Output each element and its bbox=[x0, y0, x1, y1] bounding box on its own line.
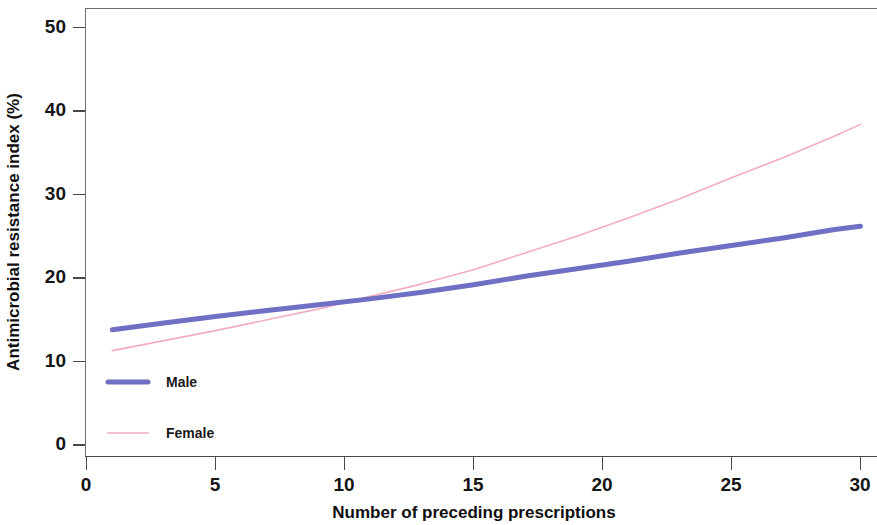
x-axis-ticks bbox=[87, 456, 861, 470]
x-tick-label-10: 10 bbox=[333, 474, 354, 495]
legend-label-male: Male bbox=[166, 374, 197, 390]
x-tick-label-15: 15 bbox=[462, 474, 484, 495]
y-tick-label-20: 20 bbox=[45, 266, 66, 287]
legend-label-female: Female bbox=[166, 425, 214, 441]
x-tick-label-25: 25 bbox=[720, 474, 742, 495]
line-chart: 50 40 30 20 10 0 0 5 10 15 20 25 30 bbox=[0, 0, 877, 525]
x-tick-label-20: 20 bbox=[591, 474, 612, 495]
x-tick-label-0: 0 bbox=[81, 474, 92, 495]
y-tick-label-50: 50 bbox=[45, 16, 66, 37]
x-tick-label-5: 5 bbox=[210, 474, 221, 495]
y-tick-label-0: 0 bbox=[55, 433, 66, 454]
y-axis-ticks bbox=[73, 28, 85, 446]
y-tick-label-30: 30 bbox=[45, 183, 66, 204]
y-axis-title: Antimicrobial resistance index (%) bbox=[4, 93, 23, 371]
x-axis-title: Number of preceding prescriptions bbox=[332, 503, 615, 522]
chart-figure: 50 40 30 20 10 0 0 5 10 15 20 25 30 bbox=[0, 0, 877, 525]
y-axis-tick-labels: 50 40 30 20 10 0 bbox=[45, 16, 66, 455]
plot-area-background bbox=[85, 8, 877, 456]
x-tick-label-30: 30 bbox=[849, 474, 870, 495]
y-tick-label-40: 40 bbox=[45, 99, 66, 120]
y-tick-label-10: 10 bbox=[45, 350, 66, 371]
x-axis-tick-labels: 0 5 10 15 20 25 30 bbox=[81, 474, 871, 495]
